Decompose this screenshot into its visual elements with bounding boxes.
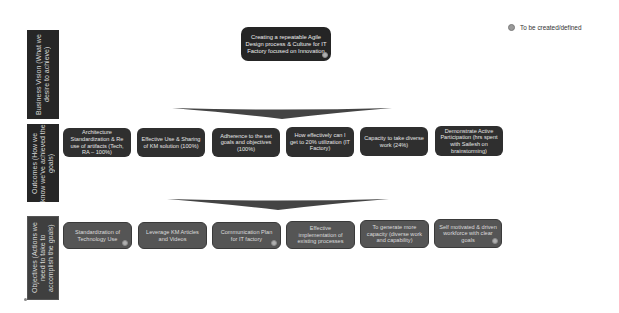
outcome-box: Adherence to the set goals and objective… [212,128,280,157]
to-be-defined-dot-icon [492,238,498,244]
objective-box: Self motivated & driven workforce with c… [434,219,502,248]
band-outcomes: Outcomes (How we know we've achieved the… [27,124,59,202]
vision-text: Creating a repeatable Agile Design proce… [245,34,327,55]
band-label: Business Vision (What we desire to achie… [35,30,51,119]
band-objectives: Objectives (Actions we need to take to a… [27,216,59,300]
outcome-text: Demonstrate Active Participation (hrs sp… [439,128,499,154]
outcome-box: Demonstrate Active Participation (hrs sp… [435,126,503,156]
to-be-defined-dot-icon [271,240,277,246]
objective-box: Communication Plan for IT factory [212,222,281,249]
objective-box: Standardization of Technology Use [63,222,132,249]
legend-label: To be created/defined [520,24,581,31]
band-label: Outcomes (How we know we've achieved the… [31,124,55,202]
objective-box: Effective implementation of existing pro… [286,221,355,249]
objective-box: Leverage KM Articles and Videos [138,222,207,249]
band-label: Objectives (Actions we need to take to a… [31,217,55,299]
outcome-box: Capacity to take diverse work (24%) [360,127,428,156]
objective-box: To generate more capacity (diverse work … [360,220,429,248]
legend-dot-icon [508,24,515,31]
to-be-defined-dot-icon [122,240,128,246]
legend: To be created/defined [508,24,581,31]
objective-text: To generate more capacity (diverse work … [365,224,424,244]
objective-text: Leverage KM Articles and Videos [143,229,202,242]
arrow-down-icon [172,105,392,121]
outcome-text: How effectively can I get to 20% utiliza… [290,132,350,152]
band-business-vision: Business Vision (What we desire to achie… [27,30,59,119]
objective-text: Standardization of Technology Use [68,229,127,242]
outcome-box: Architecture Standardization & Re use of… [63,128,131,157]
outcome-text: Architecture Standardization & Re use of… [67,129,127,155]
arrow-down-icon [167,196,389,212]
outcome-box: How effectively can I get to 20% utiliza… [286,127,354,157]
objective-text: Self motivated & driven workforce with c… [439,224,497,244]
objective-text: Communication Plan for IT factory [217,229,276,242]
outcome-text: Capacity to take diverse work (24%) [364,135,424,148]
vision-box: Creating a repeatable Agile Design proce… [241,27,331,61]
to-be-defined-dot-icon [322,52,328,58]
outcome-text: Effective Use & Sharing of KM solution (… [141,136,201,149]
outcome-text: Adherence to the set goals and objective… [216,133,276,153]
objective-text: Effective implementation of existing pro… [291,225,350,245]
slide-marker [24,298,27,301]
outcome-box: Effective Use & Sharing of KM solution (… [137,128,205,157]
